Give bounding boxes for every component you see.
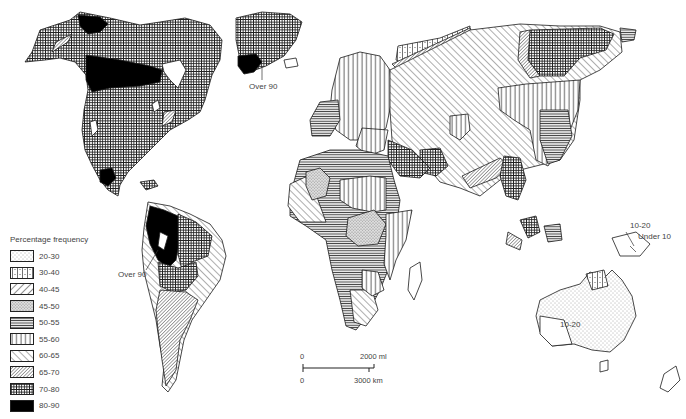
back-diagonal-swatch-icon xyxy=(10,350,34,362)
legend-item: 60-65 xyxy=(10,348,120,365)
dense-diagonal-swatch-icon xyxy=(10,366,34,378)
legend-item: 80-90 xyxy=(10,397,120,414)
legend-item: 30-40 xyxy=(10,265,120,282)
legend-item: 55-60 xyxy=(10,331,120,348)
north-america xyxy=(25,12,222,196)
scale-bottom-end: 3000 km xyxy=(354,376,383,385)
scale-bottom-start: 0 xyxy=(300,376,304,385)
scale-bar: 0 2000 ml 0 3000 km xyxy=(302,352,412,402)
legend-title: Percentage frequency xyxy=(10,235,120,244)
stipple-swatch-icon xyxy=(10,300,34,312)
annotation-australia: 10-20 xyxy=(560,320,580,329)
legend-item: 70-80 xyxy=(10,381,120,398)
dots-swatch-icon xyxy=(10,250,34,262)
new-zealand xyxy=(660,366,680,392)
africa xyxy=(288,150,422,330)
annotation-new-guinea-lower: Under 10 xyxy=(638,232,671,241)
crosshatch-swatch-icon xyxy=(10,383,34,395)
legend-item: 50-55 xyxy=(10,314,120,331)
legend-item: 65-70 xyxy=(10,364,120,381)
annotation-new-guinea-upper: 10-20 xyxy=(630,221,650,230)
south-america xyxy=(142,202,226,392)
legend-item: 45-50 xyxy=(10,298,120,315)
solid-swatch-icon xyxy=(10,400,34,412)
scale-top-end: 2000 ml xyxy=(360,352,387,361)
scale-top-start: 0 xyxy=(300,352,304,361)
scale-line-icon xyxy=(302,362,382,374)
vertical-lines-swatch-icon xyxy=(10,333,34,345)
annotation-greenland: Over 90 xyxy=(249,82,277,91)
australia xyxy=(536,270,636,372)
legend-item: 40-45 xyxy=(10,281,120,298)
legend-item: 20-30 xyxy=(10,248,120,265)
annotation-south-america: Over 90 xyxy=(118,270,146,279)
grid-dot-swatch-icon xyxy=(10,267,34,279)
greenland xyxy=(236,12,302,74)
horizontal-lines-swatch-icon xyxy=(10,317,34,329)
legend: Percentage frequency 20-30 30-40 40-45 4… xyxy=(10,235,120,414)
diagonal-swatch-icon xyxy=(10,283,34,295)
